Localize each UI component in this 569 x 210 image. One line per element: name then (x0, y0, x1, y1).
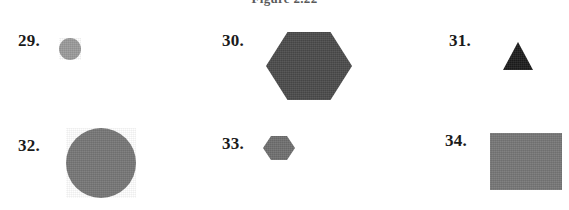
item-number-label: 31. (449, 31, 471, 51)
gray-circle-small-icon (59, 38, 81, 60)
item-number-label: 34. (445, 131, 467, 151)
gray-circle-large-icon (66, 128, 136, 198)
item-number-label: 33. (222, 134, 244, 154)
item-number-label: 29. (18, 31, 40, 51)
black-triangle-small-icon (503, 42, 533, 70)
item-number-label: 30. (222, 31, 244, 51)
gray-rectangle-icon (490, 133, 562, 190)
figure-page: Figure 2.22 29.30.31.32.33.34. (0, 0, 569, 210)
figure-caption: Figure 2.22 (0, 0, 569, 7)
gray-hexagon-small-icon (263, 136, 295, 160)
dark-gray-hexagon-large-icon (266, 32, 352, 100)
item-number-label: 32. (18, 136, 40, 156)
